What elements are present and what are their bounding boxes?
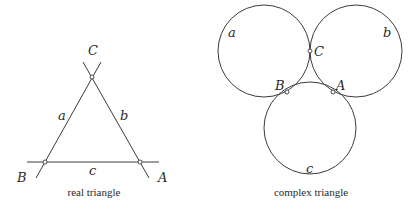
vertex-c-point [90,75,94,79]
vertex-b-point [285,90,289,94]
caption-real-triangle: real triangle [68,186,121,198]
label-vertex-b: B [16,170,27,185]
label-side-c: c [89,163,97,178]
diagram-canvas: C a b c B A real triangle a b C B A c co… [0,0,419,209]
label-vertex-a: A [335,78,345,93]
circle-a [218,5,310,97]
complex-triangle-figure: a b C B A c complex triangle [218,5,402,198]
label-side-b: b [120,108,128,123]
label-vertex-c: C [88,43,98,58]
real-triangle-figure: C a b c B A real triangle [16,43,167,198]
label-circle-b: b [383,25,391,40]
vertex-b-point [43,160,47,164]
vertex-a-point [331,90,335,94]
vertex-a-point [138,160,142,164]
label-vertex-a: A [157,170,167,185]
caption-complex-triangle: complex triangle [274,186,348,198]
label-circle-c: c [306,161,314,176]
label-circle-a: a [228,25,236,40]
diagram-stage: C a b c B A real triangle a b C B A c co… [0,0,419,209]
vertex-c-point [308,49,312,53]
label-vertex-b: B [274,78,285,93]
label-side-a: a [58,108,66,123]
label-vertex-c: C [314,44,324,59]
